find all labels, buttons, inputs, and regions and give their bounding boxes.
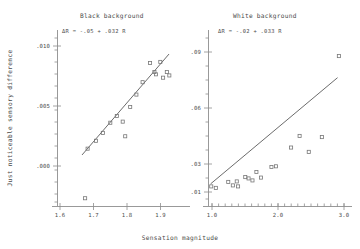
data-point — [165, 71, 168, 74]
data-point — [320, 136, 323, 139]
left-fit-line — [82, 54, 169, 155]
right-data-points — [210, 55, 341, 190]
right-x-ticklabel-0: 1.0 — [207, 212, 217, 218]
data-point — [235, 180, 238, 183]
figure-container: .010 .005 .000 1.6 1.7 1.8 1.9 Black bac… — [0, 0, 360, 249]
panel-white-background: .09 .06 .03 .01 1.0 2.0 3.0 White backgr… — [191, 12, 352, 218]
data-point — [227, 180, 230, 183]
left-y-ticklabel-0: .010 — [36, 43, 50, 49]
data-point — [274, 165, 277, 168]
right-y-ticklabel-0: .09 — [191, 49, 201, 55]
data-point — [259, 176, 262, 179]
panel-black-background: .010 .005 .000 1.6 1.7 1.8 1.9 Black bac… — [36, 12, 190, 218]
right-y-ticklabel-3: .01 — [191, 189, 201, 195]
left-y-major-ticks — [53, 46, 61, 166]
data-point — [210, 185, 213, 188]
data-point — [149, 61, 152, 64]
data-point — [84, 197, 87, 200]
data-point — [237, 185, 240, 188]
data-point — [247, 177, 250, 180]
scatter-figure: .010 .005 .000 1.6 1.7 1.8 1.9 Black bac… — [0, 0, 360, 249]
data-point — [251, 179, 254, 182]
left-data-points — [84, 60, 171, 199]
left-y-ticklabel-2: .000 — [36, 163, 50, 169]
right-y-ticklabel-1: .06 — [191, 105, 201, 111]
data-point — [307, 150, 310, 153]
left-x-ticklabel-2: 1.8 — [122, 212, 133, 218]
left-y-ticklabel-1: .005 — [36, 103, 50, 109]
data-point — [298, 134, 301, 137]
data-point — [168, 74, 171, 77]
y-axis-title: Just noticeable sensory difference — [6, 50, 14, 187]
data-point — [121, 120, 124, 123]
left-regression-equation: ΔR = -.05 + .032 R — [62, 28, 126, 34]
left-x-ticklabel-1: 1.7 — [88, 212, 98, 218]
data-point — [290, 146, 293, 149]
data-point — [337, 55, 340, 58]
left-x-ticklabel-3: 1.9 — [155, 212, 165, 218]
right-fit-line — [211, 78, 338, 184]
data-point — [214, 186, 217, 189]
right-panel-title: White background — [233, 12, 297, 20]
right-x-ticklabel-1: 2.0 — [273, 212, 283, 218]
right-regression-equation: ΔR = -.02 + .033 R — [218, 28, 282, 34]
data-point — [255, 170, 258, 173]
data-point — [270, 165, 273, 168]
right-y-ticklabel-2: .03 — [191, 161, 201, 167]
data-point — [231, 184, 234, 187]
left-x-ticklabel-0: 1.6 — [55, 212, 65, 218]
data-point — [162, 76, 165, 79]
data-point — [124, 135, 127, 138]
x-axis-title: Sensation magnitude — [142, 234, 218, 242]
left-panel-title: Black background — [80, 12, 144, 20]
right-x-ticklabel-2: 3.0 — [339, 212, 349, 218]
data-point — [244, 176, 247, 179]
data-point — [129, 105, 132, 108]
